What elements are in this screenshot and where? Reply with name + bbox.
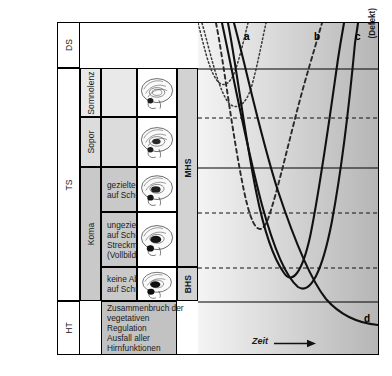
plot-svg <box>198 23 378 354</box>
time-course-plot <box>198 23 378 354</box>
brain-cell-koma-gezielt <box>137 167 177 212</box>
time-axis-arrow-icon <box>274 339 316 348</box>
brain-sagittal-icon <box>139 171 175 209</box>
stage-cell-koma: Koma <box>80 167 101 301</box>
finding-text-ht: Zusammenbruch der vegetativen Regulation… <box>107 303 187 354</box>
curve-label-c: c <box>355 31 361 42</box>
finding-cell-koma-keine: keine Abwehr auf Schmerzreize <box>101 267 137 301</box>
finding-cell-ht: Zusammenbruch der vegetativen Regulation… <box>101 301 177 355</box>
stage-label-somnolenz: Somnolenz <box>86 71 96 114</box>
syndrome-cell-mhs: MHS <box>177 68 198 267</box>
level-label-ds: DS <box>64 39 74 51</box>
finding-cell-somnolenz <box>101 68 137 117</box>
plot-band-ts <box>198 69 378 302</box>
stage-cell-somnolenz: Somnolenz <box>80 68 101 117</box>
curve-label-a: a <box>244 31 250 42</box>
brain-sagittal-icon <box>139 73 175 113</box>
finding-cell-koma-ungezielt: ungezielte Abwehr auf Schmerzreize Strec… <box>101 212 137 267</box>
syndrome-label-bhs: BHS <box>183 275 193 293</box>
finding-cell-koma-gezielt: gezielte Abwehr auf Schmerzreize <box>101 167 137 212</box>
level-label-ts: TS <box>64 179 74 190</box>
finding-cell-sopor <box>101 117 137 167</box>
figure-root: DS TS HT Somnolenz Sopor Koma gezielte A… <box>0 0 392 376</box>
plot-band-ds <box>198 23 378 69</box>
stage-label-sopor: Sopor <box>86 130 96 153</box>
time-axis-label: Zeit <box>252 336 268 346</box>
brain-cell-koma-ungezielt <box>137 212 177 267</box>
stage-cell-sopor: Sopor <box>80 117 101 167</box>
brain-sagittal-icon <box>139 219 175 261</box>
brain-cell-koma-keine <box>137 267 177 301</box>
syndrome-cell-bhs: BHS <box>177 267 198 301</box>
level-label-ht: HT <box>64 322 74 334</box>
level-cell-ht: HT <box>57 301 80 355</box>
curve-label-d: d <box>364 313 370 324</box>
curve-label-b: b <box>314 31 320 42</box>
brain-cell-sopor <box>137 117 177 167</box>
defekt-annotation: (Defekt) <box>366 28 378 72</box>
level-cell-ts: TS <box>57 68 80 301</box>
syndrome-label-mhs: MHS <box>183 158 193 177</box>
level-cell-ds: DS <box>57 22 80 68</box>
brain-sagittal-icon <box>139 122 175 162</box>
brain-cell-somnolenz <box>137 68 177 117</box>
stage-label-koma: Koma <box>86 223 96 246</box>
brain-sagittal-icon <box>139 269 175 300</box>
